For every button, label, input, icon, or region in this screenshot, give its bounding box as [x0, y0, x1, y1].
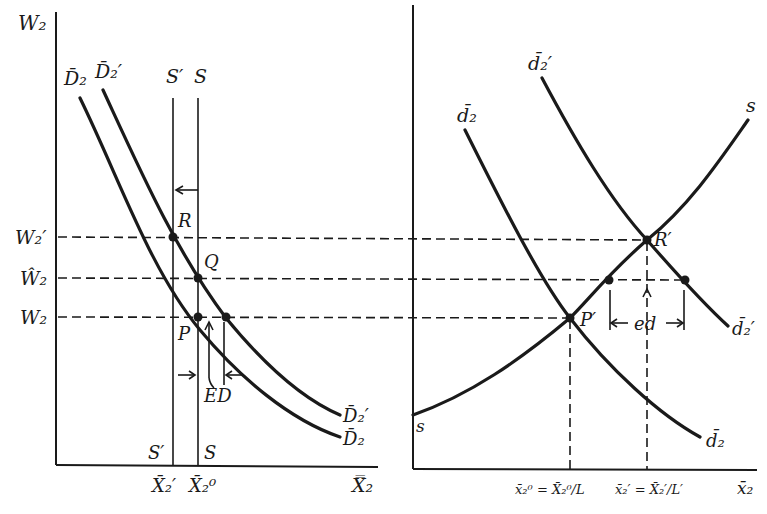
label-demand-shifted-end: D̄₂′: [342, 404, 369, 426]
x-axis-label: X̿₂: [350, 474, 373, 496]
label-demand-top: D̄₂: [63, 67, 87, 89]
point-q: [194, 274, 203, 283]
label-s-top: s: [746, 94, 756, 116]
label-ed: ed: [634, 313, 656, 334]
y-axis-label: W₂: [18, 11, 47, 35]
point-r: [169, 233, 178, 242]
tick-w2-prime: W₂′: [15, 226, 47, 248]
right-x-axis: [413, 469, 757, 470]
label-ed: ED: [203, 385, 232, 406]
label-supply-shifted-bottom: S′: [148, 442, 164, 463]
label-supply-shifted-top: S′: [166, 65, 184, 87]
left-x-axis: [56, 465, 378, 467]
small-demand-shifted-curve: [542, 78, 728, 326]
point-p-prime: [566, 314, 575, 323]
label-d2-prime-top: d̄₂′: [528, 51, 553, 74]
label-s-bottom: s: [416, 416, 425, 436]
demand-shifted-curve: [103, 90, 340, 415]
guide-w2-prime: [58, 237, 647, 240]
label-point-p-prime: P′: [579, 309, 596, 330]
x-axis-label: x̄₂: [737, 478, 754, 498]
guide-w2-hat: [58, 278, 685, 280]
tick-x2-prime: X̄₂′: [150, 474, 176, 496]
label-supply-top: S: [194, 65, 207, 87]
label-d2-end: d̄₂: [706, 428, 725, 451]
tick-x2-zero-ratio: x̄₂⁰ = X̄₂⁰/L: [515, 482, 585, 497]
tick-x2-prime-ratio: x̄₂′ = X̄₂′/L′: [615, 482, 683, 497]
economic-diagram: W₂ D̄₂ D̄₂′ S′ S W₂′ Ŵ₂ W₂ R Q P ED D̄₂′…: [0, 0, 767, 514]
label-d2-top: d̄₂: [457, 103, 477, 126]
tick-w2-hat: Ŵ₂: [20, 267, 47, 289]
point-excess-demand: [222, 313, 231, 322]
label-d2-prime-end: d̄₂′: [732, 316, 755, 339]
guide-w2: [58, 317, 570, 318]
point-supply-at-w2hat: [605, 276, 614, 285]
label-point-r-prime: R′: [653, 229, 672, 250]
small-demand-curve: [465, 130, 700, 437]
point-p: [194, 313, 203, 322]
right-panel: d̄₂′ d̄₂ s R′ P′ ed d̄₂′ d̄₂ s x̄₂⁰ = X̄…: [413, 5, 757, 498]
tick-x2-zero: X̄₂⁰: [187, 474, 216, 496]
label-supply-bottom: S: [204, 442, 216, 463]
label-demand-shifted-top: D̄₂′: [94, 60, 123, 82]
point-demand-at-w2hat: [681, 276, 690, 285]
label-point-q: Q: [204, 251, 219, 272]
small-supply-curve: [413, 120, 748, 415]
tick-w2: W₂: [20, 306, 47, 328]
label-demand-end: D̄₂: [342, 427, 365, 449]
label-point-p: P: [177, 323, 191, 344]
left-panel: W₂ D̄₂ D̄₂′ S′ S W₂′ Ŵ₂ W₂ R Q P ED D̄₂′…: [15, 11, 685, 496]
label-point-r: R: [177, 210, 192, 231]
point-r-prime: [643, 236, 652, 245]
